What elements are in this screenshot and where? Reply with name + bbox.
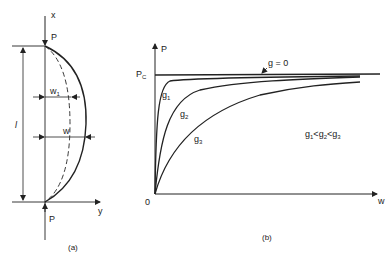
load-label-bottom: P	[49, 214, 55, 224]
g1-label: g1	[162, 90, 171, 101]
origin-label: 0	[145, 197, 150, 207]
w-axis-label: w	[377, 196, 385, 206]
w-label: w	[62, 126, 70, 136]
panel-b: P w 0 PC g = 0 g1 g2 g3 g1<g2<g3 (b)	[136, 44, 385, 242]
load-label-top: P	[51, 32, 57, 42]
inequality-label: g1<g2<g3	[305, 129, 341, 140]
deflected-shape-curve	[45, 46, 86, 202]
panel-a: x P y P l w1 w (a)	[12, 10, 103, 252]
y-axis-label: y	[98, 206, 103, 216]
buckling-diagram: x P y P l w1 w (a) P w 0	[0, 0, 391, 262]
curve-g0	[155, 74, 380, 75]
w1-label: w1	[49, 86, 61, 97]
p-axis-label: P	[161, 44, 167, 54]
pc-label: PC	[136, 69, 147, 80]
initial-imperfection-curve	[45, 46, 70, 202]
caption-b: (b)	[262, 233, 272, 242]
x-axis-label: x	[51, 10, 56, 20]
g0-label: g = 0	[268, 58, 288, 68]
caption-a: (a)	[68, 243, 78, 252]
g2-label: g2	[180, 109, 189, 120]
g3-label: g3	[194, 134, 203, 145]
